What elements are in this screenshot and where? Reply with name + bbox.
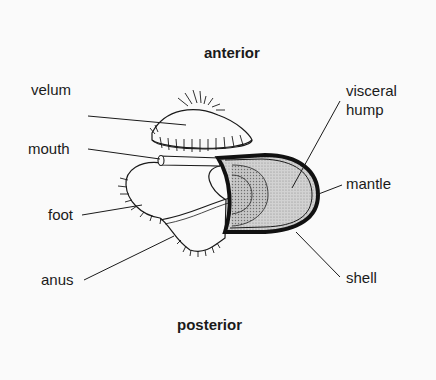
veliger-larva-diagram: anterior velum mouth foot anus visceral … xyxy=(0,0,436,380)
mouth-tube xyxy=(158,156,220,167)
visceral-hump-label-line2: hump xyxy=(346,102,384,118)
posterior-label: posterior xyxy=(177,317,242,333)
shell-shape xyxy=(218,155,318,232)
anterior-label: anterior xyxy=(204,45,260,61)
foot-label: foot xyxy=(48,207,73,223)
visceral-hump-label-line1: visceral xyxy=(346,83,397,99)
mantle-label: mantle xyxy=(346,176,391,192)
mouth-label: mouth xyxy=(28,141,70,157)
shell-label: shell xyxy=(346,270,377,286)
velum-shape xyxy=(150,90,252,152)
velum-label: velum xyxy=(31,82,71,98)
foot-shape xyxy=(118,162,232,257)
anus-label: anus xyxy=(41,272,74,288)
